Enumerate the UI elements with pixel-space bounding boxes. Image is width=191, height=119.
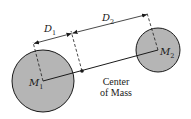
label-d1: D1 [43, 23, 56, 37]
label-center-of-mass-line1: Center [103, 76, 130, 87]
label-center-of-mass-line2: of Mass [100, 87, 132, 98]
extension-line-center-of-mass [71, 31, 82, 71]
center-of-mass-diagram: D1 D2 M1 M2 Center of Mass [0, 0, 191, 119]
label-d2: D2 [101, 12, 114, 26]
center-of-mass-point [80, 69, 84, 73]
